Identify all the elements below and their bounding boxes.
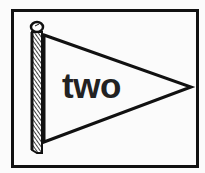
pole-finial: [31, 22, 43, 32]
pennant-label: two: [62, 66, 121, 106]
